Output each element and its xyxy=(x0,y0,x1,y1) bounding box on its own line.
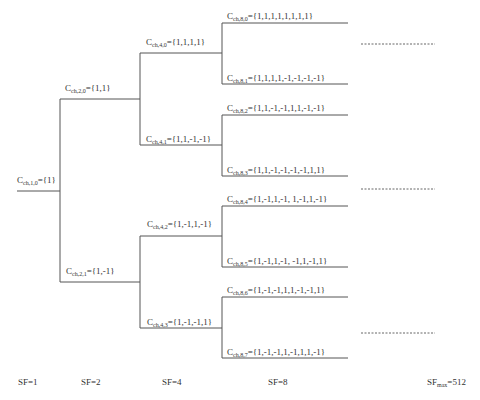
code-label-ch1-0: Cch,1,0={1} xyxy=(17,175,56,185)
code-label-ch2-0: Cch,2,0={1,1} xyxy=(65,83,111,93)
code-label-ch8-1: Cch,8,1={1,1,1,1,-1,-1,-1,-1} xyxy=(227,73,325,83)
code-label-ch8-6: Cch,8,6={1,-1,-1,1,1,-1,-1,1} xyxy=(227,285,325,295)
code-label-ch4-3: Cch,4,3={1,-1,-1,1} xyxy=(147,317,212,327)
code-label-ch8-3: Cch,8,3={1,1,-1,-1,-1,-1,1,1} xyxy=(227,165,325,175)
code-label-ch4-2: Cch,4,2={1,-1,1,-1} xyxy=(147,219,212,229)
sf-label-8: SF=8 xyxy=(268,377,288,387)
code-label-ch4-1: Cch,4,1={1,1,-1,-1} xyxy=(146,134,211,144)
code-label-ch4-0: Cch,4,0={1,1,1,1} xyxy=(146,37,205,47)
sf-label-1: SF=1 xyxy=(18,377,38,387)
code-label-ch8-7: Cch,8,7={1,-1,-1,1,-1,1,1,-1} xyxy=(227,347,325,357)
code-label-ch8-2: Cch,8,2={1,1,-1,-1,1,1,-1,-1} xyxy=(227,103,325,113)
code-label-ch8-5: Cch,8,5={1,-1,1,-1, -1,1,-1,1} xyxy=(227,256,327,266)
code-label-ch8-0: Cch,8,0={1,1,1,1,1,1,1,1} xyxy=(227,11,313,21)
sf-label-2: SF=2 xyxy=(81,377,101,387)
code-label-ch2-1: Cch,2,1={1,-1} xyxy=(66,266,115,276)
sf-label-max: SFmax=512 xyxy=(427,377,466,387)
code-label-ch8-4: Cch,8,4={1,-1,1,-1, 1,-1,1,-1} xyxy=(227,194,327,204)
sf-label-4: SF=4 xyxy=(162,377,182,387)
